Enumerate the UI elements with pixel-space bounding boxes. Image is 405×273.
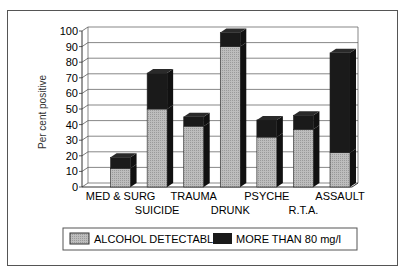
svg-text:20: 20 bbox=[66, 150, 78, 162]
bar-chart: 0102030405060708090100 MED & SURGSUICIDE… bbox=[0, 0, 405, 273]
bar-segment bbox=[111, 153, 137, 168]
x-tick-label: SUICIDE bbox=[135, 204, 180, 216]
bar-segment bbox=[184, 113, 210, 126]
bar-segment bbox=[293, 125, 319, 187]
bar-segment bbox=[330, 149, 356, 187]
x-tick-label: MED & SURG bbox=[86, 190, 156, 202]
bar-segment bbox=[257, 133, 283, 187]
svg-text:10: 10 bbox=[66, 165, 78, 177]
x-tick-label: PSYCHE bbox=[244, 190, 289, 202]
bar-segment bbox=[257, 116, 283, 137]
bar-segment bbox=[147, 105, 173, 187]
bar-segment bbox=[220, 43, 246, 187]
y-axis-label: Per cent positive bbox=[37, 75, 48, 149]
x-labels: MED & SURGSUICIDETRAUMADRUNKPSYCHER.T.A.… bbox=[86, 190, 365, 216]
bar-segment bbox=[147, 69, 173, 109]
svg-text:100: 100 bbox=[60, 25, 78, 37]
svg-text:30: 30 bbox=[66, 134, 78, 146]
bar-segment bbox=[293, 111, 319, 129]
svg-text:80: 80 bbox=[66, 56, 78, 68]
svg-text:50: 50 bbox=[66, 103, 78, 115]
x-tick-label: DRUNK bbox=[211, 204, 251, 216]
x-tick-label: TRAUMA bbox=[170, 190, 217, 202]
legend-label-80mg: MORE THAN 80 mg/l bbox=[236, 233, 341, 245]
x-tick-label: R.T.A. bbox=[288, 204, 318, 216]
svg-text:90: 90 bbox=[66, 41, 78, 53]
bars bbox=[111, 29, 356, 187]
legend-swatch-80mg bbox=[213, 233, 232, 244]
svg-text:40: 40 bbox=[66, 119, 78, 131]
x-tick-label: ASSAULT bbox=[315, 190, 365, 202]
svg-text:70: 70 bbox=[66, 72, 78, 84]
svg-text:0: 0 bbox=[72, 181, 78, 193]
legend-swatch-alcohol bbox=[70, 233, 89, 244]
legend-label-alcohol: ALCOHOL DETECTABLE bbox=[94, 233, 221, 245]
bar-segment bbox=[220, 29, 246, 47]
svg-text:60: 60 bbox=[66, 87, 78, 99]
bar-segment bbox=[184, 122, 210, 187]
legend: ALCOHOL DETECTABLE MORE THAN 80 mg/l bbox=[63, 228, 357, 250]
bar-segment bbox=[330, 49, 356, 153]
